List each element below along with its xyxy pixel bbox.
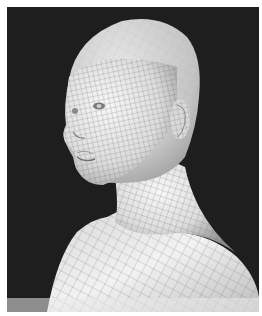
eye-far [72, 108, 78, 114]
render-viewport [7, 7, 259, 312]
head-mesh-render [7, 7, 259, 312]
ear-mesh [170, 99, 190, 139]
